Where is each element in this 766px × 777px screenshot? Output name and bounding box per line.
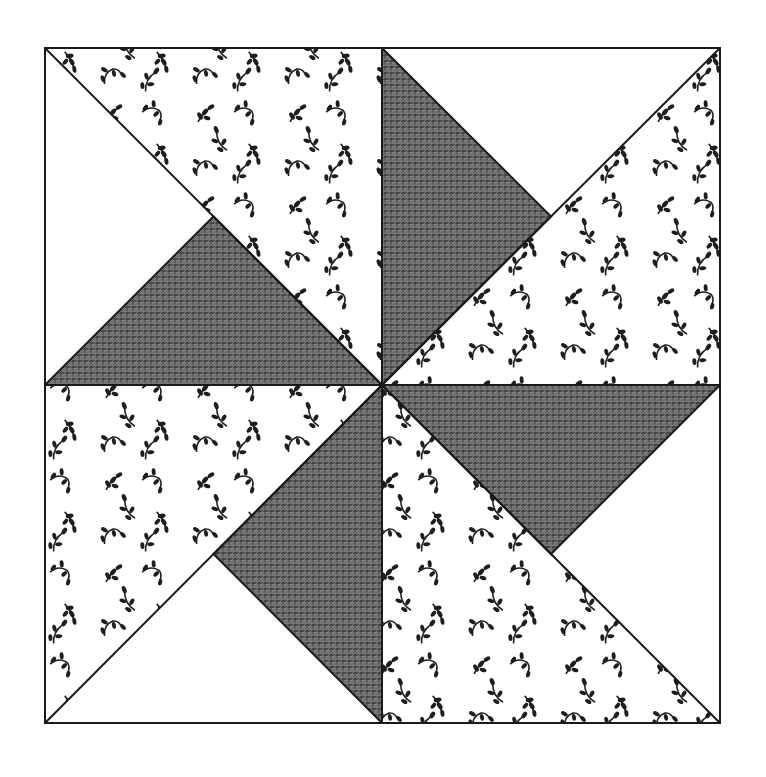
outline-lines (45, 48, 720, 723)
quilt-block-illustration: Hand-drawn pinwheel quilt block: a squar… (0, 0, 766, 777)
quilt-block-svg (0, 0, 766, 777)
